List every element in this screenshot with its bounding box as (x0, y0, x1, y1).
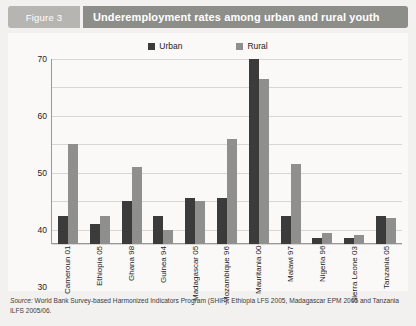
bar-rural (354, 235, 364, 244)
bar-urban (312, 238, 322, 244)
chart-legend: UrbanRural (8, 41, 408, 51)
y-axis-tick-label: 60 (38, 111, 47, 121)
legend-item-urban: Urban (148, 41, 182, 51)
bar-rural (227, 139, 237, 244)
bar-urban (249, 59, 259, 244)
bar-rural (259, 79, 269, 244)
bar-group (249, 59, 269, 244)
figure-header: Figure 3 Underemployment rates among urb… (8, 6, 408, 28)
bar-group (281, 59, 301, 244)
bar-rural (386, 218, 396, 244)
bar-urban (90, 224, 100, 244)
bar-rural (163, 230, 173, 244)
bar-rural (68, 144, 78, 244)
y-axis-tick-label: 30 (38, 282, 47, 292)
bar-urban (281, 216, 291, 244)
bar-urban (122, 201, 132, 244)
bar-urban (185, 198, 195, 244)
bar-rural (291, 164, 301, 244)
bar-urban (376, 216, 386, 244)
bar-group (185, 59, 205, 244)
bar-group (122, 59, 142, 244)
bar-rural (195, 201, 205, 244)
bar-urban (217, 198, 227, 244)
bar-group (376, 59, 396, 244)
bar-rural (322, 233, 332, 244)
source-note: Source: World Bank Survey-based Harmoniz… (10, 296, 408, 316)
y-axis-tick-label: 40 (38, 225, 47, 235)
legend-label: Urban (159, 41, 182, 51)
bar-group (153, 59, 173, 244)
legend-swatch-icon (148, 43, 155, 50)
figure-title: Underemployment rates among urban and ru… (83, 6, 408, 28)
bar-groups (52, 59, 402, 244)
plot-area: 510203040506070 (52, 59, 402, 244)
bar-group (217, 59, 237, 244)
bar-rural (132, 167, 142, 244)
bar-rural (100, 216, 110, 244)
y-axis-tick-label: 70 (38, 54, 47, 64)
bar-urban (153, 216, 163, 244)
bar-group (312, 59, 332, 244)
bar-group (90, 59, 110, 244)
bar-urban (58, 216, 68, 244)
bar-group (58, 59, 78, 244)
figure-number-tag: Figure 3 (8, 6, 80, 28)
legend-item-rural: Rural (236, 41, 267, 51)
chart-panel: UrbanRural 510203040506070 Cameroun 01Et… (8, 33, 408, 291)
bar-urban (344, 238, 354, 244)
legend-label: Rural (247, 41, 267, 51)
source-body: World Bank Survey-based Harmonized Indic… (10, 297, 399, 314)
figure-container: Figure 3 Underemployment rates among urb… (0, 0, 416, 326)
gridline: 5 (52, 244, 402, 245)
bar-group (344, 59, 364, 244)
source-label: Source: (10, 297, 33, 304)
y-axis-tick-label: 50 (38, 168, 47, 178)
legend-swatch-icon (236, 43, 243, 50)
